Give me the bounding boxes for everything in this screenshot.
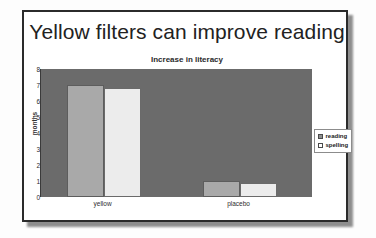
legend-item-reading: reading	[318, 132, 348, 141]
y-axis-tick-labels: 876543210	[26, 69, 40, 197]
y-axis-tick: 4	[26, 130, 40, 137]
scanned-page-background: Yellow filters can improve reading Incre…	[0, 0, 376, 238]
slide-frame: Yellow filters can improve reading Incre…	[22, 10, 348, 222]
y-axis-tick: 2	[26, 162, 40, 169]
legend-item-spelling: spelling	[318, 141, 348, 150]
y-axis-tick: 1	[26, 178, 40, 185]
slide-title: Yellow filters can improve reading	[24, 20, 350, 44]
legend-swatch-icon	[318, 143, 323, 148]
legend-label: reading	[326, 132, 348, 141]
legend-label: spelling	[326, 141, 349, 150]
plot-area	[40, 69, 312, 197]
chart-legend: readingspelling	[314, 129, 352, 153]
y-axis-tick: 0	[26, 194, 40, 201]
y-axis-tick: 5	[26, 114, 40, 121]
y-axis-tick: 3	[26, 146, 40, 153]
x-axis-tick: yellow	[94, 200, 112, 207]
legend-swatch-icon	[318, 134, 323, 139]
x-axis-tick-labels: yellowplacebo	[40, 200, 312, 212]
y-axis-tick: 6	[26, 98, 40, 105]
chart-subtitle: Increase in literacy	[24, 55, 350, 64]
bar-placebo-spelling	[240, 183, 277, 197]
y-axis-tick: 8	[26, 66, 40, 73]
bar-placebo-reading	[203, 181, 240, 197]
y-axis-tick: 7	[26, 82, 40, 89]
bar-yellow-reading	[67, 85, 104, 197]
x-axis-tick: placebo	[227, 200, 250, 207]
bar-yellow-spelling	[104, 88, 141, 197]
